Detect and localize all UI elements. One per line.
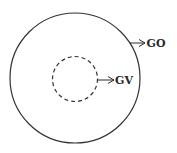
inner-dashed-circle (53, 57, 98, 102)
outer-circle-label: GO (147, 37, 166, 50)
inner-circle-label: GV (115, 74, 133, 87)
diagram-canvas: GO GV (0, 0, 177, 153)
concentric-circles-diagram: GO GV (0, 0, 177, 153)
